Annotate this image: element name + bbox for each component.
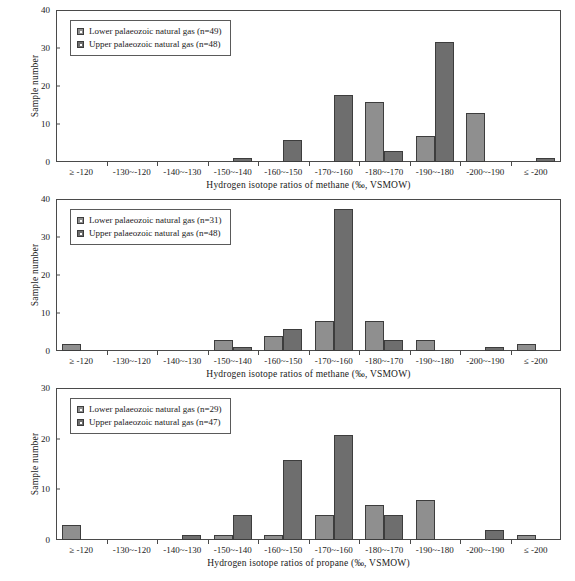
x-tick-mark xyxy=(258,540,259,544)
bar-lower-palaeozoic xyxy=(264,336,283,351)
bar-upper-palaeozoic xyxy=(334,95,353,163)
bar-upper-palaeozoic xyxy=(384,515,403,540)
legend-item-lower-3: Lower palaeozoic natural gas (n=29) xyxy=(77,403,222,416)
x-tick-label: -150~-140 xyxy=(214,356,252,366)
x-tick-label: -180~-170 xyxy=(365,356,403,366)
bar-group xyxy=(460,199,511,351)
x-tick-mark xyxy=(309,162,310,166)
x-tick-mark xyxy=(460,540,461,544)
bar-upper-palaeozoic xyxy=(283,329,302,352)
bar-lower-palaeozoic xyxy=(365,505,384,540)
x-tick-label: -140~-130 xyxy=(163,356,201,366)
bar-group xyxy=(460,10,511,162)
bar-lower-palaeozoic xyxy=(466,113,485,162)
bar-lower-palaeozoic xyxy=(517,344,536,352)
x-tick-mark xyxy=(309,351,310,355)
bar-group xyxy=(309,388,360,540)
x-tick-mark xyxy=(107,162,108,166)
chart-panel-2: 010203040 Sample number Lower palaeozoic… xyxy=(0,190,575,379)
legend-label-lower: Lower palaeozoic natural gas (n=29) xyxy=(89,403,222,416)
x-tick-label: -130~-120 xyxy=(113,545,151,555)
x-tick-label: ≤ -200 xyxy=(524,356,548,366)
legend-swatch-upper-icon xyxy=(77,230,84,237)
chart-panel-3: 0102030 Sample number Lower palaeozoic n… xyxy=(0,379,575,568)
bar-group xyxy=(359,10,410,162)
x-tick-mark xyxy=(511,351,512,355)
legend-label-upper: Upper palaeozoic natural gas (n=48) xyxy=(89,38,221,51)
legend-swatch-lower-icon xyxy=(77,217,84,224)
legend-item-lower-2: Lower palaeozoic natural gas (n=31) xyxy=(77,214,222,227)
x-tick-mark xyxy=(258,162,259,166)
bar-lower-palaeozoic xyxy=(416,500,435,540)
legend-swatch-lower-icon xyxy=(77,406,84,413)
legend-swatch-upper-icon xyxy=(77,419,84,426)
x-tick-mark xyxy=(208,162,209,166)
bar-lower-palaeozoic xyxy=(416,136,435,162)
bar-lower-palaeozoic xyxy=(214,340,233,351)
x-tick-label: -170~-160 xyxy=(315,356,353,366)
x-tick-label: ≤ -200 xyxy=(524,167,548,177)
x-tick-label: -160~-150 xyxy=(264,167,302,177)
x-tick-mark xyxy=(107,351,108,355)
legend-label-lower: Lower palaeozoic natural gas (n=31) xyxy=(89,214,222,227)
x-tick-label: -170~-160 xyxy=(315,167,353,177)
x-tick-label: ≥ -120 xyxy=(69,167,93,177)
bar-group xyxy=(460,388,511,540)
x-tick-mark xyxy=(107,540,108,544)
legend-label-upper: Upper palaeozoic natural gas (n=47) xyxy=(89,416,221,429)
x-tick-label: -190~-180 xyxy=(416,545,454,555)
figure-root: 010203040 Sample number Lower palaeozoic… xyxy=(0,0,575,581)
x-tick-mark xyxy=(157,351,158,355)
legend-swatch-upper-icon xyxy=(77,41,84,48)
legend-item-lower-1: Lower palaeozoic natural gas (n=49) xyxy=(77,25,222,38)
x-tick-label: -140~-130 xyxy=(163,545,201,555)
chart-panel-1: 010203040 Sample number Lower palaeozoic… xyxy=(0,0,575,190)
bar-group xyxy=(258,199,309,351)
x-axis-2: ≥ -120-130~-120-140~-130-150~-140-160~-1… xyxy=(56,351,561,367)
bar-group xyxy=(511,10,562,162)
bar-upper-palaeozoic xyxy=(334,209,353,352)
x-tick-label: -160~-150 xyxy=(264,545,302,555)
x-tick-mark xyxy=(359,351,360,355)
bar-lower-palaeozoic xyxy=(365,321,384,351)
bar-upper-palaeozoic xyxy=(283,140,302,163)
legend-label-upper: Upper palaeozoic natural gas (n=48) xyxy=(89,227,221,240)
x-tick-label: -150~-140 xyxy=(214,545,252,555)
x-tick-mark xyxy=(157,540,158,544)
bar-lower-palaeozoic xyxy=(315,515,334,540)
y-tick-label: 30 xyxy=(41,383,50,393)
legend-label-lower: Lower palaeozoic natural gas (n=49) xyxy=(89,25,222,38)
legend-item-upper-3: Upper palaeozoic natural gas (n=47) xyxy=(77,416,222,429)
legend-swatch-lower-icon xyxy=(77,28,84,35)
bar-upper-palaeozoic xyxy=(283,460,302,540)
x-tick-mark xyxy=(157,162,158,166)
bar-group xyxy=(309,199,360,351)
x-tick-label: ≥ -120 xyxy=(69,356,93,366)
x-tick-label: -130~-120 xyxy=(113,167,151,177)
legend-2: Lower palaeozoic natural gas (n=31) Uppe… xyxy=(70,209,231,245)
x-tick-mark xyxy=(410,351,411,355)
bar-upper-palaeozoic xyxy=(485,530,504,540)
x-tick-mark xyxy=(511,540,512,544)
x-tick-label: -160~-150 xyxy=(264,356,302,366)
y-tick-label: 10 xyxy=(41,119,50,129)
x-tick-mark xyxy=(511,162,512,166)
y-tick-label: 20 xyxy=(41,270,50,280)
bar-group xyxy=(511,199,562,351)
x-tick-label: -180~-170 xyxy=(365,167,403,177)
legend-3: Lower palaeozoic natural gas (n=29) Uppe… xyxy=(70,398,231,434)
y-tick-label: 20 xyxy=(41,81,50,91)
bar-group xyxy=(410,199,461,351)
bar-group xyxy=(511,388,562,540)
bar-group xyxy=(410,10,461,162)
y-tick-label: 40 xyxy=(41,194,50,204)
x-tick-mark xyxy=(410,540,411,544)
bar-upper-palaeozoic xyxy=(233,515,252,540)
bar-lower-palaeozoic xyxy=(62,525,81,540)
bar-group xyxy=(359,199,410,351)
y-axis-title-1: Sample number xyxy=(30,55,40,118)
x-tick-mark xyxy=(410,162,411,166)
x-tick-label: -200~-190 xyxy=(466,356,504,366)
x-tick-mark xyxy=(359,540,360,544)
x-tick-mark xyxy=(309,540,310,544)
